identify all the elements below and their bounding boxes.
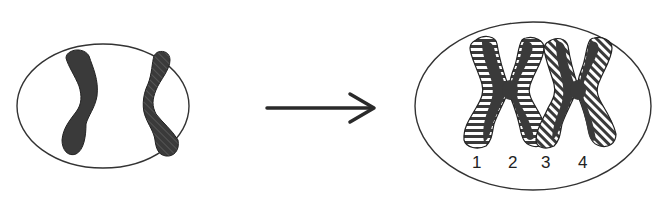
chromosome-unreplicated-1 (62, 50, 97, 155)
chromatid-label-1: 1 (472, 153, 481, 172)
replicated-chromosome-a (464, 37, 548, 148)
chromosome-unreplicated-2 (143, 51, 178, 156)
chromatid-label-3: 3 (541, 153, 550, 172)
chromosome-replication-diagram: 1 2 3 4 (0, 0, 666, 201)
chromatid-label-4: 4 (578, 153, 587, 172)
right-cell: 1 2 3 4 (415, 22, 651, 190)
arrow-right-icon (267, 94, 374, 122)
replicated-chromosome-b (536, 37, 616, 148)
chromatid-label-2: 2 (508, 153, 517, 172)
left-cell (17, 44, 189, 168)
